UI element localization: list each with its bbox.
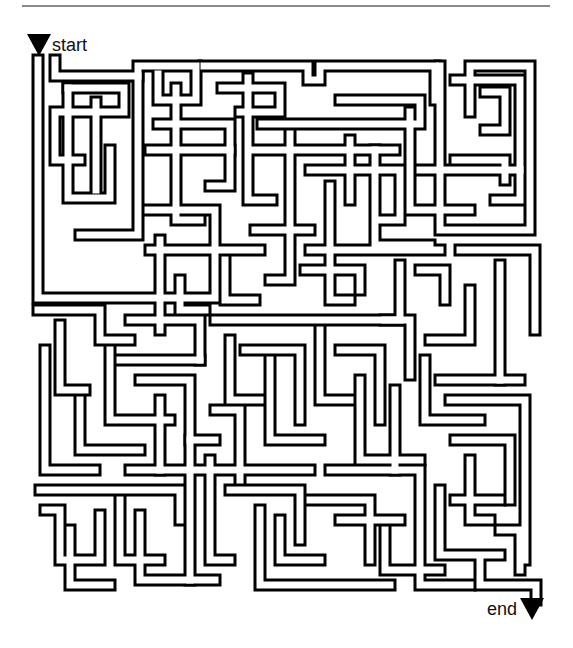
maze[interactable] <box>0 0 573 648</box>
maze-wall-segment <box>455 440 510 500</box>
end-marker: end <box>487 598 544 620</box>
maze-wall-segment <box>420 270 445 300</box>
maze-wall-segment <box>320 330 350 400</box>
maze-corridor-segment <box>310 500 370 560</box>
end-label: end <box>487 598 517 620</box>
maze-corridor-segment <box>500 265 520 380</box>
maze-wall-segment <box>248 78 272 200</box>
maze-corridor-segment <box>385 265 400 320</box>
maze-corridor-segment <box>140 380 215 440</box>
maze-corridors <box>38 60 536 600</box>
maze-wall-segment <box>38 310 130 340</box>
maze-wall-segment <box>310 500 370 560</box>
maze-wall-segment <box>385 530 440 570</box>
maze-corridor-segment <box>455 440 510 500</box>
maze-wall-segment <box>425 360 480 420</box>
maze-wall-segment <box>138 66 196 100</box>
maze-corridor-segment <box>470 460 490 520</box>
maze-wall-segment <box>225 260 255 300</box>
maze-wall-segment <box>68 88 110 198</box>
maze-wall-segment <box>60 325 85 390</box>
down-triangle-icon <box>520 598 544 620</box>
maze-corridor-segment <box>425 360 480 420</box>
maze-wall-segment <box>140 380 215 440</box>
